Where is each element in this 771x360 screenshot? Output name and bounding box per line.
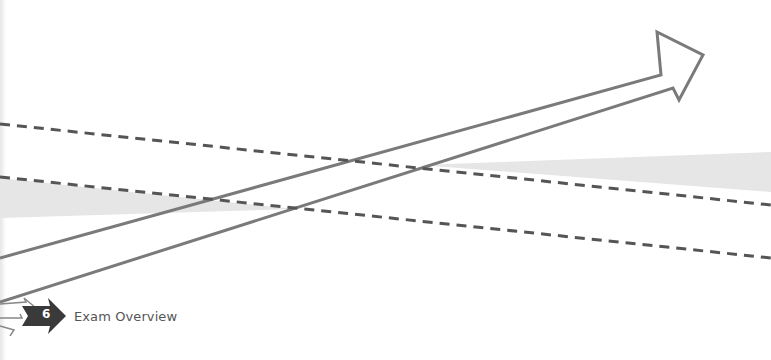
dashed-line-bottom — [0, 177, 771, 258]
chapter-title: Exam Overview — [74, 309, 177, 324]
chapter-number: 6 — [42, 307, 50, 321]
chapter-heading: 6 Exam Overview — [0, 296, 177, 336]
chapter-arrows-icon: 6 — [0, 296, 68, 336]
gray-band-left — [0, 178, 295, 218]
